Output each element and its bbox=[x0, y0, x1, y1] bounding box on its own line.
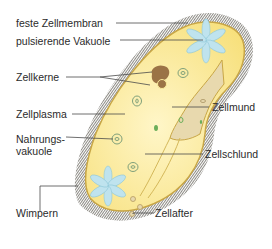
label-zellschlund: Zellschlund bbox=[205, 149, 258, 160]
paramecium-diagram: feste Zellmembran pulsierende Vakuole Ze… bbox=[0, 0, 272, 249]
label-wimpern: Wimpern bbox=[16, 208, 58, 219]
label-nahrungsvakuole-line2: vakuole bbox=[16, 146, 52, 157]
label-nahrungsvakuole-line1: Nahrungs- bbox=[16, 134, 65, 145]
label-zellmund: Zellmund bbox=[212, 102, 255, 113]
micronucleus bbox=[158, 80, 167, 89]
label-pulsierende-vakuole: pulsierende Vakuole bbox=[16, 36, 110, 47]
label-zellafter: Zellafter bbox=[155, 208, 193, 219]
label-zellkerne: Zellkerne bbox=[16, 72, 59, 83]
label-feste-zellmembran: feste Zellmembran bbox=[16, 18, 103, 29]
label-zellplasma: Zellplasma bbox=[16, 109, 67, 120]
